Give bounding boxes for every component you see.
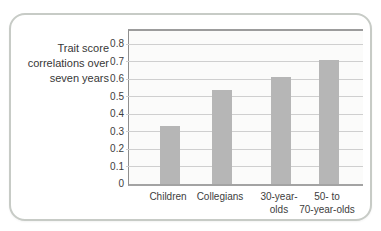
gridline [126,44,363,45]
y-tick-label: 0.5 [110,91,124,103]
x-axis-labels: ChildrenCollegians30-year- olds50- to 70… [128,191,362,219]
bar-50-to-70-year-olds [319,60,339,184]
y-tick-label: 0.1 [110,161,124,173]
bar-children [160,126,180,184]
y-tick-label: 0.4 [110,108,124,120]
y-tick-label: 0.2 [110,143,124,155]
figure-card: Trait score correlations over seven year… [9,13,372,221]
y-tick-label: 0.8 [110,38,124,50]
y-axis-tick-labels: 00.10.20.30.40.50.60.70.8 [11,31,124,184]
y-tick-label: 0.6 [110,73,124,85]
x-axis-label: 50- to 70-year-olds [282,191,372,216]
y-tick-label: 0 [118,178,124,190]
plot-area [128,29,363,186]
y-tick-label: 0.3 [110,126,124,138]
bar-30-year-olds [271,77,291,184]
y-tick-label: 0.7 [110,56,124,68]
bar-collegians [212,90,232,185]
